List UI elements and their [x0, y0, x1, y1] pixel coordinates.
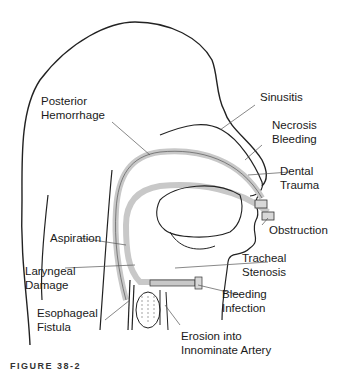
- label-line: Dental: [280, 165, 319, 179]
- label-posterior-hemorrhage: Posterior Hemorrhage: [41, 95, 105, 122]
- label-line: Trauma: [280, 179, 319, 193]
- label-esophageal-fistula: Esophageal Fistula: [37, 307, 98, 334]
- label-line: Innominate Artery: [181, 344, 271, 358]
- label-line: Aspiration: [50, 232, 101, 246]
- label-bleeding-infection: Bleeding Infection: [222, 288, 267, 315]
- label-line: Bleeding: [222, 288, 267, 302]
- label-line: Erosion into: [181, 330, 271, 344]
- label-line: Fistula: [37, 321, 98, 335]
- label-tracheal-stenosis: Tracheal Stenosis: [242, 252, 286, 279]
- label-line: Bleeding: [272, 133, 317, 147]
- label-line: Tracheal: [242, 252, 286, 266]
- label-line: Stenosis: [242, 266, 286, 280]
- label-sinusitis: Sinusitis: [260, 91, 303, 105]
- label-dental-trauma: Dental Trauma: [280, 165, 319, 192]
- label-obstruction: Obstruction: [269, 224, 328, 238]
- label-line: Hemorrhage: [41, 109, 105, 123]
- label-necrosis-bleeding: Necrosis Bleeding: [272, 119, 317, 146]
- label-line: Sinusitis: [260, 91, 303, 105]
- label-line: Posterior: [41, 95, 105, 109]
- label-erosion-innominate-artery: Erosion into Innominate Artery: [181, 330, 271, 357]
- label-line: Necrosis: [272, 119, 317, 133]
- label-laryngeal-damage: Laryngeal Damage: [25, 265, 76, 292]
- label-line: Obstruction: [269, 224, 328, 238]
- label-aspiration: Aspiration: [50, 232, 101, 246]
- label-line: Laryngeal: [25, 265, 76, 279]
- label-line: Damage: [25, 279, 76, 293]
- label-line: Infection: [222, 302, 267, 316]
- figure-caption: FIGURE 38-2: [10, 361, 81, 371]
- label-line: Esophageal: [37, 307, 98, 321]
